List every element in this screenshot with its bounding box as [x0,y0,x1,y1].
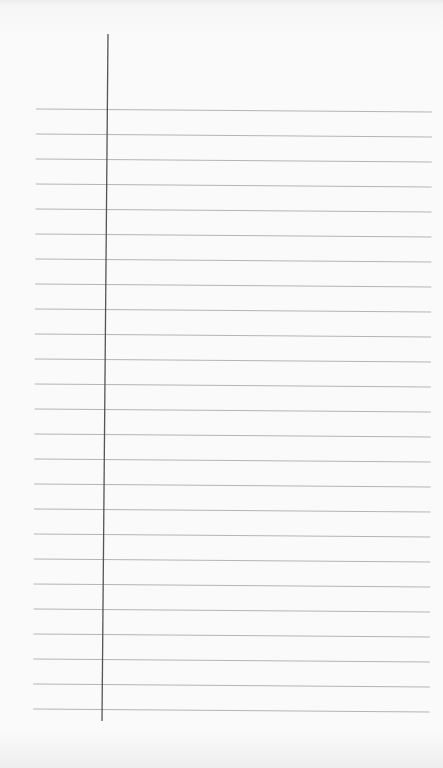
ruled-line [35,359,431,362]
ruled-line [34,609,430,612]
ruled-line [35,409,431,412]
ruled-line [35,234,431,237]
ruled-line [34,509,430,512]
ruled-line [35,284,431,287]
notepad-page [0,0,443,768]
ruled-line [33,659,429,662]
ruled-line [35,384,431,387]
ruled-line [36,209,432,212]
ruled-line [34,559,430,562]
ruled-line [36,109,432,112]
ruled-line [34,584,430,587]
ruled-line [36,159,432,162]
ruled-line [35,309,431,312]
ruled-line [34,459,430,462]
ruled-line [33,709,429,712]
ruled-line [34,434,430,437]
ruled-line [35,259,431,262]
ruled-line [33,634,429,637]
ruled-line [35,334,431,337]
ruled-line [36,134,432,137]
ruled-line [34,484,430,487]
ruled-line [34,534,430,537]
ruled-line [33,684,429,687]
ruled-lines [0,0,443,768]
ruled-line [36,184,432,187]
margin-line [102,34,108,721]
